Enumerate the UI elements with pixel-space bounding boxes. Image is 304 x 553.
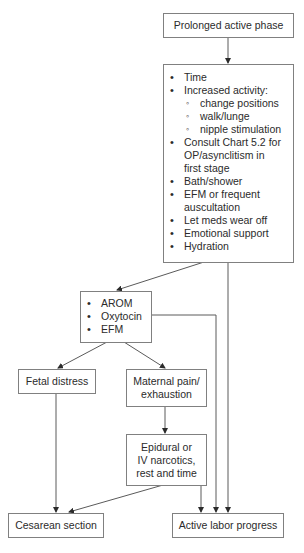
- list-item: Increased activity:: [164, 84, 293, 97]
- node-epidural: Epidural or IV narcotics, rest and time: [126, 434, 207, 486]
- node-label-line: exhaustion: [141, 388, 192, 401]
- list-item: walk/lunge: [164, 110, 293, 123]
- node-label: Prolonged active phase: [174, 19, 284, 32]
- node-fetal-distress: Fetal distress: [18, 369, 96, 394]
- list-item: EFM: [81, 323, 151, 336]
- node-interventions: Time Increased activity: change position…: [163, 64, 294, 263]
- arom-list: AROM Oxytocin EFM: [81, 297, 151, 336]
- list-item: EFM or frequent: [164, 188, 293, 201]
- node-prolonged-active-phase: Prolonged active phase: [163, 13, 294, 38]
- node-label: Active labor progress: [179, 519, 278, 532]
- interventions-list: Time Increased activity: change position…: [164, 71, 293, 253]
- node-label-line: IV narcotics,: [138, 454, 196, 467]
- list-item: Oxytocin: [81, 310, 151, 323]
- node-label-line: Epidural or: [141, 441, 192, 454]
- list-item: change positions: [164, 97, 293, 110]
- list-item: Bath/shower: [164, 175, 293, 188]
- list-item: Let meds wear off: [164, 214, 293, 227]
- list-item: AROM: [81, 297, 151, 310]
- node-label-line: rest and time: [136, 467, 197, 480]
- node-active-labor-progress: Active labor progress: [172, 513, 284, 538]
- node-label: Fetal distress: [26, 375, 88, 388]
- node-arom-oxytocin-efm: AROM Oxytocin EFM: [80, 291, 152, 343]
- list-item-continuation: auscultation: [164, 201, 293, 214]
- list-item: Time: [164, 71, 293, 84]
- list-item: Emotional support: [164, 227, 293, 240]
- list-item: Hydration: [164, 240, 293, 253]
- node-label-line: Maternal pain/: [133, 375, 200, 388]
- list-item: nipple stimulation: [164, 123, 293, 136]
- node-cesarean-section: Cesarean section: [8, 513, 104, 538]
- list-item-continuation: first stage: [164, 162, 293, 175]
- node-label: Cesarean section: [15, 519, 97, 532]
- list-item: Consult Chart 5.2 for: [164, 136, 293, 149]
- node-maternal-pain: Maternal pain/ exhaustion: [126, 369, 207, 407]
- list-item-continuation: OP/asynclitism in: [164, 149, 293, 162]
